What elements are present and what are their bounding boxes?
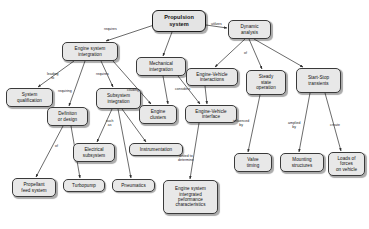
node-label-propulsion-system: Propulsion system — [155, 14, 203, 27]
node-label-steady-state-operation: Steady state operation — [249, 74, 283, 90]
node-dynamic-analysis[interactable]: Dynamic analysis — [228, 20, 271, 39]
node-label-engine-vehicle-interface: Engine-Vehicle interface — [188, 109, 234, 120]
edge-e-steady-valve — [248, 95, 260, 152]
node-label-valve-timing: Valve timing — [237, 157, 269, 168]
node-mechanical-integration[interactable]: Mechanical intergration — [136, 57, 186, 76]
edge-e-dynamic-of — [215, 39, 245, 67]
node-loads-of-forces[interactable]: Loads of forces on vehicle — [328, 152, 365, 176]
node-propellant-feed-system[interactable]: Propellant feed system — [12, 178, 56, 197]
node-valve-timing[interactable]: Valve timing — [234, 153, 272, 172]
node-label-engine-system-integration: Engine system intergration — [65, 46, 115, 57]
node-start-stop-transients[interactable]: Start-Stop transients — [296, 68, 341, 93]
node-label-pneumatics: Pneumatics — [115, 183, 152, 188]
edge-e-subsystem-pneumatics — [118, 109, 131, 178]
node-turbopump[interactable]: Turbopump — [63, 179, 105, 192]
node-pneumatics[interactable]: Pneumatics — [112, 179, 155, 192]
node-engine-clusters[interactable]: Engine clusters — [139, 105, 177, 124]
edge-label-e-root-dynamic-analysis: utilizes — [211, 23, 222, 27]
node-definition-or-design[interactable]: Definiton or design — [47, 107, 88, 126]
edge-label-e-esi-system-qualification: leading to — [47, 73, 58, 81]
node-engine-system-integration[interactable]: Engine system intergration — [62, 42, 118, 61]
node-label-electrical-subsystem: Electrical subsystem — [76, 147, 112, 158]
node-label-loads-of-forces: Loads of forces on vehicle — [331, 156, 362, 172]
node-system-qualification[interactable]: System qualification — [6, 88, 53, 107]
concept-map-canvas: Propulsion systemEngine system intergrat… — [0, 0, 369, 229]
edge-e-root-mechanical-integration — [163, 32, 172, 56]
node-electrical-subsystem[interactable]: Electrical subsystem — [73, 143, 115, 162]
edge-label-e-startstop-mounting: amplied by — [288, 122, 300, 130]
edge-label-e-evinterface-performance: tested to determine — [178, 155, 194, 163]
node-label-propellant-feed-system: Propellant feed system — [15, 182, 53, 193]
edge-label-e-startstop-loads: create — [330, 124, 340, 128]
node-label-instrumentation: Instrumentation — [132, 147, 180, 152]
edge-e-startstop-mounting — [299, 93, 310, 152]
node-steady-state-operation[interactable]: Steady state operation — [246, 70, 286, 95]
edge-e-evinteractions-evinterface — [205, 86, 207, 104]
node-label-subsystem-integration: Subsystem integration — [99, 93, 138, 104]
edge-label-e-subsystem-electrical: such as — [106, 120, 113, 128]
node-mounting-structures[interactable]: Mounting structures — [280, 153, 324, 172]
edge-e-mech-engine-clusters — [163, 76, 168, 104]
node-label-start-stop-transients: Start-Stop transients — [299, 75, 338, 86]
edge-label-e-esi-engine-clusters: ciluding — [127, 89, 139, 93]
node-label-mounting-structures: Mounting structures — [283, 157, 321, 168]
node-label-definition-or-design: Definiton or design — [50, 111, 85, 122]
edge-label-e-dynamic-of: of — [244, 52, 247, 56]
node-label-system-qualification: System qualification — [9, 92, 50, 103]
node-label-dynamic-analysis: Dynamic analysis — [231, 24, 268, 35]
node-label-turbopump: Turbopump — [66, 183, 102, 188]
edge-label-e-mech-engine-clusters: considers — [175, 88, 190, 92]
edge-e-evinterface-performance — [190, 123, 199, 179]
edge-e-definition-propellant — [36, 126, 63, 177]
node-instrumentation[interactable]: Instrumentation — [129, 143, 183, 156]
edge-e-startstop-loads — [325, 93, 341, 151]
node-propulsion-system[interactable]: Propulsion system — [152, 10, 206, 32]
node-engine-system-integrated-performance[interactable]: Engine system intergrated peformance cha… — [163, 180, 218, 214]
node-label-mechanical-integration: Mechanical intergration — [139, 61, 183, 72]
edge-label-e-esi-subsystem: requires — [96, 73, 109, 77]
edge-e-dynamic-startstop — [254, 39, 303, 67]
edge-e-esi-definition — [69, 61, 85, 106]
node-engine-vehicle-interface[interactable]: Engine-Vehicle interface — [185, 105, 237, 123]
node-engine-vehicle-interactions[interactable]: Engine-Vehicle interactions — [186, 68, 238, 86]
edge-label-e-steady-valve: influenced by — [233, 120, 249, 128]
edge-label-e-definition-propellant: of — [55, 145, 58, 149]
node-label-engine-system-integrated-performance: Engine system intergrated peformance cha… — [166, 186, 215, 208]
node-label-engine-clusters: Engine clusters — [142, 109, 174, 120]
edge-e-dynamic-steady — [249, 39, 262, 69]
edge-label-e-esi-definition: requiring — [58, 90, 72, 94]
edge-label-e-root-engine-system-integration: requires — [104, 28, 117, 32]
node-label-engine-vehicle-interactions: Engine-Vehicle interactions — [189, 72, 235, 83]
